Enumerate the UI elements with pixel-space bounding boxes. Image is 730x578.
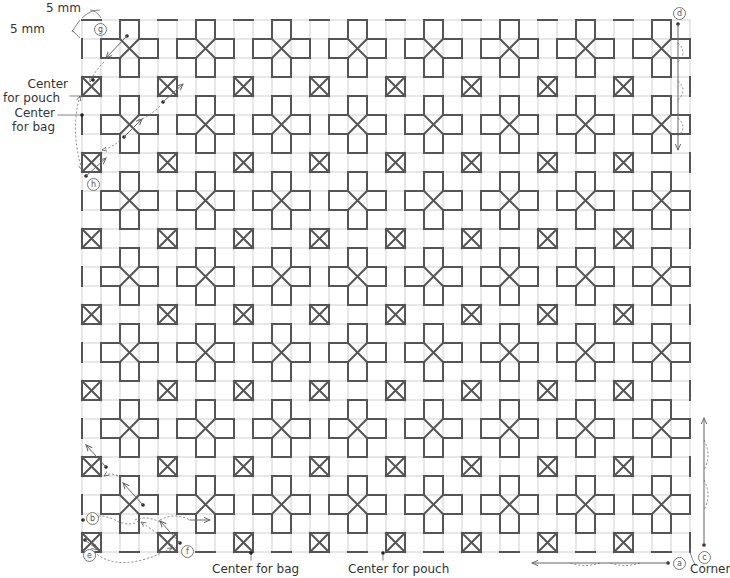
marker-d: d xyxy=(673,7,686,20)
center-bag-left-label: Center xyxy=(3,106,55,120)
center-pouch-left-label-2: for pouch xyxy=(3,91,60,105)
center-bag-left-label-2: for bag xyxy=(3,120,55,134)
marker-c: c xyxy=(698,551,711,564)
center-pouch-bottom-label: Center for pouch xyxy=(348,562,449,576)
marker-e: e xyxy=(83,549,96,562)
corner-label: Corner xyxy=(690,562,730,576)
marker-h: h xyxy=(87,178,100,191)
marker-b: b xyxy=(86,512,99,525)
marker-g: g xyxy=(94,23,107,36)
marker-a: a xyxy=(673,557,686,570)
center-bag-bottom-label: Center for bag xyxy=(212,562,299,576)
marker-f: f xyxy=(181,545,194,558)
annotations xyxy=(58,10,708,566)
center-pouch-left-line1: Center xyxy=(28,77,68,91)
dim-horizontal-label: 5 mm xyxy=(46,1,81,15)
dim-vertical-label: 5 mm xyxy=(10,22,45,36)
center-pouch-left-label: Center xyxy=(3,77,68,91)
